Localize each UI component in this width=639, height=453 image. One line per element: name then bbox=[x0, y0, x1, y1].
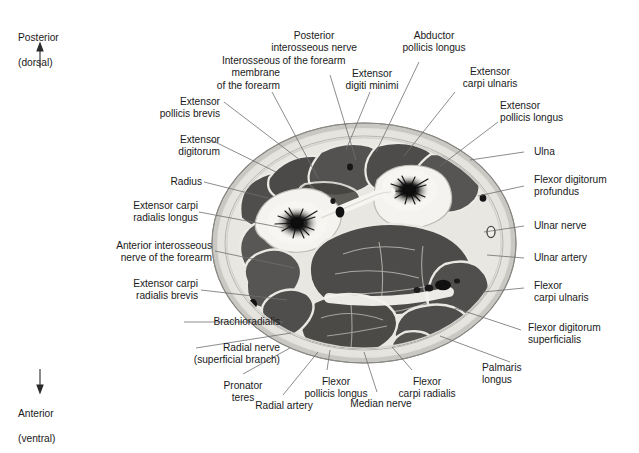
label-anterior-interosseous-nerve: Anterior interosseous nerve of the forea… bbox=[60, 240, 212, 265]
label-ulnar-nerve: Ulnar nerve bbox=[534, 220, 634, 232]
label-flexor-digitorum-superficialis: Flexor digitorum superficialis bbox=[528, 322, 638, 347]
label-abductor-pollicis-longus: Abductor pollicis longus bbox=[386, 30, 482, 55]
label-ulnar-artery: Ulnar artery bbox=[534, 252, 634, 264]
label-flexor-digitorum-profundus: Flexor digitorum profundus bbox=[534, 174, 638, 199]
label-extensor-pollicis-longus: Extensor pollicis longus bbox=[500, 100, 630, 125]
label-ulna: Ulna bbox=[534, 146, 634, 158]
forearm-cross-section-image bbox=[209, 122, 519, 368]
label-extensor-carpi-ulnaris: Extensor carpi ulnaris bbox=[448, 66, 532, 91]
label-extensor-pollicis-brevis: Extensor pollicis brevis bbox=[100, 96, 220, 121]
orientation-posterior-subtext: (dorsal) bbox=[18, 57, 53, 68]
label-flexor-carpi-ulnaris: Flexor carpi ulnaris bbox=[534, 280, 634, 305]
label-extensor-digitorum: Extensor digitorum bbox=[110, 134, 220, 159]
orientation-anterior-text: Anterior bbox=[18, 408, 54, 419]
label-palmaris-longus: Palmaris longus bbox=[482, 362, 568, 387]
orientation-posterior: Posterior (dorsal) bbox=[18, 20, 59, 70]
label-radial-nerve: Radial nerve (superficial branch) bbox=[72, 342, 280, 367]
cross-section-graphic bbox=[209, 122, 519, 368]
label-posterior-interosseous-nerve: Posterior interosseous nerve of the fore… bbox=[252, 30, 376, 67]
label-extensor-carpi-radialis-longus: Extensor carpi radialis longus bbox=[88, 200, 198, 225]
label-flexor-carpi-radialis: Flexor carpi radialis bbox=[382, 376, 472, 401]
label-extensor-digiti-minimi: Extensor digiti minimi bbox=[332, 68, 412, 93]
orientation-posterior-text: Posterior bbox=[18, 32, 59, 43]
figure-canvas: Posterior (dorsal) Anterior (ventral) In… bbox=[0, 0, 639, 453]
page-footer-partial bbox=[0, 444, 639, 453]
label-extensor-carpi-radialis-brevis: Extensor carpi radialis brevis bbox=[92, 278, 198, 303]
label-radius: Radius bbox=[130, 176, 202, 188]
orientation-anterior: Anterior (ventral) bbox=[18, 396, 55, 446]
orientation-anterior-subtext: (ventral) bbox=[18, 433, 55, 444]
label-radial-artery: Radial artery bbox=[238, 400, 330, 412]
label-brachioradialis: Brachioradialis bbox=[100, 316, 280, 328]
